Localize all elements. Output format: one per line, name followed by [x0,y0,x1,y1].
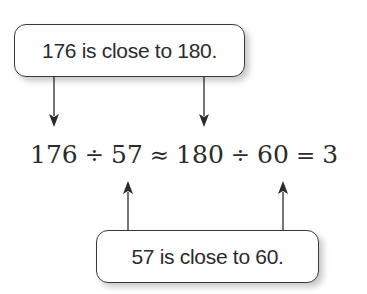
arrow-down-to-180 [199,77,209,127]
divisor-original: 57 [111,140,143,169]
bottom-callout-box: 57 is close to 60. [96,230,319,283]
top-callout-box: 176 is close to 180. [14,24,245,77]
arrow-up-to-57 [123,181,133,231]
approx-sign: ≈ [150,142,169,168]
arrow-down-to-176 [49,77,59,127]
divisor-rounded: 60 [257,140,289,169]
bottom-callout-text: 57 is close to 60. [131,245,283,269]
top-callout-text: 176 is close to 180. [42,39,217,63]
dividend-rounded: 180 [176,140,224,169]
arrow-up-to-60 [278,181,288,231]
estimation-equation: 176 ÷ 57 ≈ 180 ÷ 60 = 3 [30,140,352,169]
divide-sign: ÷ [231,142,250,168]
quotient-result: 3 [322,140,338,169]
divide-sign: ÷ [85,142,104,168]
dividend-original: 176 [30,140,78,169]
equals-sign: = [296,142,315,168]
